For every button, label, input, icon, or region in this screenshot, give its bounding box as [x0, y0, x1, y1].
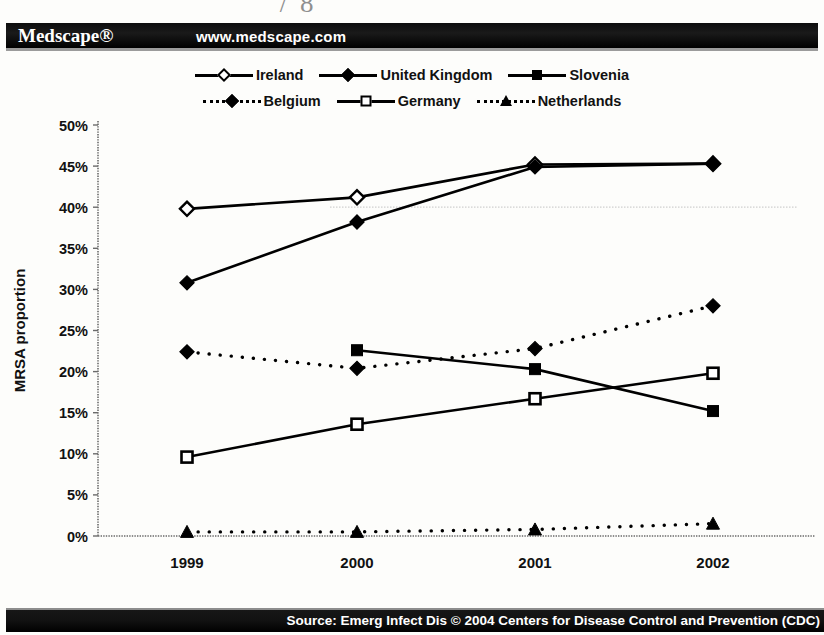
- series-line-ireland: [187, 164, 713, 209]
- source-text: Source: Emerg Infect Dis © 2004 Centers …: [286, 613, 820, 628]
- chart-page: ˜ / 8 Medscape® www.medscape.com Ireland…: [0, 0, 824, 635]
- y-tick-label: 35%: [59, 241, 88, 257]
- legend-label-slovenia: Slovenia: [569, 67, 629, 83]
- data-point-netherlands-2000: [351, 525, 364, 537]
- data-point-netherlands-2001: [529, 523, 542, 535]
- legend-swatch-united-kingdom: [319, 67, 377, 83]
- legend-label-belgium: Belgium: [264, 93, 321, 109]
- data-point-ireland-1999: [180, 202, 194, 216]
- series-line-germany: [187, 373, 713, 457]
- data-point-ireland-2000: [350, 190, 364, 204]
- legend-swatch-slovenia: [508, 67, 566, 83]
- medscape-banner: Medscape® www.medscape.com: [6, 23, 818, 51]
- data-point-belgium-1999: [180, 345, 194, 359]
- source-footer: Source: Emerg Infect Dis © 2004 Centers …: [6, 608, 824, 632]
- data-point-slovenia-2002: [708, 406, 719, 417]
- data-point-germany-2002: [708, 368, 719, 379]
- data-point-united-kingdom-2002: [706, 157, 720, 171]
- data-point-united-kingdom-2001: [528, 160, 542, 174]
- y-tick-label: 5%: [67, 487, 88, 503]
- legend-item-belgium: Belgium: [203, 93, 321, 109]
- diamond-filled-icon: [341, 68, 355, 82]
- square-filled-icon: [532, 70, 542, 80]
- series-line-belgium: [187, 306, 713, 368]
- medscape-logo: Medscape®: [18, 25, 113, 47]
- triangle-filled-icon: [500, 95, 512, 106]
- legend-row-1: Ireland United Kingdom Slovenia: [0, 62, 824, 88]
- series-line-united-kingdom: [187, 164, 713, 283]
- legend-label-ireland: Ireland: [256, 67, 304, 83]
- y-tick-label: 0%: [67, 529, 88, 545]
- y-axis-title: MRSA proportion: [11, 269, 28, 393]
- data-point-united-kingdom-2000: [350, 215, 364, 229]
- data-point-germany-1999: [182, 452, 193, 463]
- legend-label-germany: Germany: [398, 93, 461, 109]
- data-point-netherlands-1999: [181, 525, 194, 537]
- legend-label-united-kingdom: United Kingdom: [380, 67, 492, 83]
- legend-item-netherlands: Netherlands: [477, 93, 622, 109]
- y-tick-label: 40%: [59, 200, 88, 216]
- scan-artifact-text: ˜ / 8: [258, 0, 317, 19]
- legend-swatch-germany: [337, 93, 395, 109]
- diamond-open-icon: [217, 68, 231, 82]
- diamond-filled-icon: [224, 94, 238, 108]
- series-line-netherlands: [187, 524, 713, 532]
- data-point-germany-2001: [530, 393, 541, 404]
- legend-swatch-belgium: [203, 93, 261, 109]
- y-tick-label: 10%: [59, 446, 88, 462]
- data-point-belgium-2000: [350, 361, 364, 375]
- legend-item-slovenia: Slovenia: [508, 67, 629, 83]
- square-open-icon: [360, 96, 371, 107]
- data-point-slovenia-2001: [530, 364, 541, 375]
- series-line-slovenia: [357, 350, 713, 411]
- x-tick-label-2002: 2002: [696, 554, 729, 571]
- legend-item-germany: Germany: [337, 93, 461, 109]
- legend-item-ireland: Ireland: [195, 67, 304, 83]
- y-tick-label: 25%: [59, 323, 88, 339]
- data-point-germany-2000: [352, 419, 363, 430]
- x-tick-label-2000: 2000: [340, 554, 373, 571]
- x-tick-label-1999: 1999: [170, 554, 203, 571]
- y-tick-label: 50%: [59, 118, 88, 134]
- y-tick-label: 20%: [59, 364, 88, 380]
- data-point-ireland-2002: [706, 157, 720, 171]
- y-tick-label: 15%: [59, 405, 88, 421]
- legend-item-united-kingdom: United Kingdom: [319, 67, 492, 83]
- chart-legend: Ireland United Kingdom Slovenia Belgi: [0, 62, 824, 114]
- x-tick-label-2001: 2001: [518, 554, 551, 571]
- legend-swatch-netherlands: [477, 93, 535, 109]
- legend-swatch-ireland: [195, 67, 253, 83]
- data-point-belgium-2002: [706, 299, 720, 313]
- data-point-united-kingdom-1999: [180, 276, 194, 290]
- data-point-slovenia-2000: [352, 345, 363, 356]
- data-point-belgium-2001: [528, 342, 542, 356]
- legend-label-netherlands: Netherlands: [538, 93, 622, 109]
- medscape-url: www.medscape.com: [196, 28, 346, 45]
- y-tick-label: 45%: [59, 159, 88, 175]
- data-point-netherlands-2002: [707, 517, 720, 529]
- legend-row-2: Belgium Germany Netherlands: [0, 88, 824, 114]
- data-point-ireland-2001: [528, 157, 542, 171]
- y-tick-label: 30%: [59, 282, 88, 298]
